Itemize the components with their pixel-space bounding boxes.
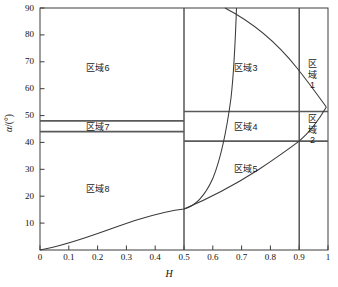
chart-figure: 10 20 30 40 50 60 70 80 90 0 0.1 0.2 0.3… (0, 0, 338, 287)
region-label-6: 区域6 (78, 63, 118, 73)
x-tick-0-3: 0.3 (114, 253, 138, 262)
x-tick-1: 1 (316, 253, 338, 262)
x-tick-0: 0 (28, 253, 52, 262)
region-label-7: 区域7 (78, 122, 118, 132)
region-label-4: 区域4 (226, 122, 266, 132)
region-label-5: 区域5 (226, 164, 266, 174)
x-tick-0-5: 0.5 (172, 253, 196, 262)
region-label-1: 区域 1 (306, 59, 319, 91)
region-label-3: 区域3 (226, 63, 266, 73)
y-tick-20: 20 (6, 192, 34, 201)
y-tick-10: 10 (6, 219, 34, 228)
x-tick-0-2: 0.2 (86, 253, 110, 262)
x-tick-0-8: 0.8 (258, 253, 282, 262)
y-axis-title-alpha: α (4, 127, 14, 132)
x-axis-title: H (0, 268, 338, 279)
y-tick-60: 60 (6, 84, 34, 93)
region-label-8: 区域8 (78, 184, 118, 194)
x-tick-0-1: 0.1 (57, 253, 81, 262)
y-axis-title-unit: /(°) (4, 114, 14, 127)
y-tick-90: 90 (6, 4, 34, 13)
y-tick-80: 80 (6, 30, 34, 39)
y-tick-70: 70 (6, 57, 34, 66)
x-tick-0-6: 0.6 (201, 253, 225, 262)
plot-canvas (0, 0, 338, 287)
x-tick-0-9: 0.9 (287, 253, 311, 262)
x-tick-0-7: 0.7 (230, 253, 254, 262)
y-tick-30: 30 (6, 165, 34, 174)
x-tick-0-4: 0.4 (143, 253, 167, 262)
y-axis-title: α/(°) (4, 101, 14, 145)
region-label-2: 区域 2 (306, 114, 319, 146)
